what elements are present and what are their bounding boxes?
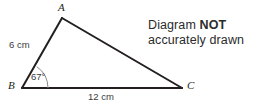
note-line1-strong: NOT (200, 18, 227, 32)
angle-label-b: 67° (31, 72, 45, 82)
note-line2: accurately drawn (148, 33, 244, 47)
side-label-bc: 12 cm (88, 92, 114, 102)
vertex-label-c: C (187, 80, 194, 91)
not-to-scale-note: Diagram NOT accurately drawn (148, 18, 258, 47)
vertex-label-a: A (58, 2, 65, 13)
vertex-label-b: B (8, 80, 15, 91)
side-label-ab: 6 cm (9, 40, 30, 50)
note-line1-prefix: Diagram (148, 18, 200, 32)
triangle-diagram (0, 0, 261, 109)
